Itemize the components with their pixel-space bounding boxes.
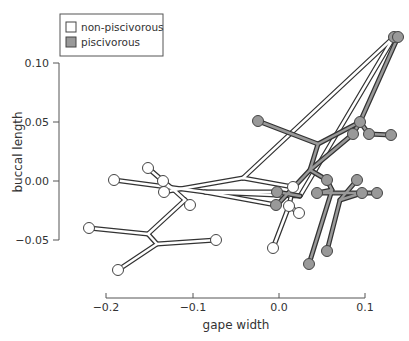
data-point xyxy=(284,201,295,212)
y-axis: 0.10 0.05 0.00 −0.05 buccal length xyxy=(11,57,59,247)
data-point xyxy=(271,200,282,211)
y-tick-label: 0.05 xyxy=(25,116,50,129)
y-axis-label: buccal length xyxy=(11,111,25,192)
y-tick-label: 0.10 xyxy=(25,57,50,70)
data-point xyxy=(294,208,305,219)
data-point xyxy=(143,163,154,174)
x-axis: −0.2 −0.1 0.0 0.1 gape width xyxy=(93,293,374,332)
data-point xyxy=(322,246,333,257)
data-point xyxy=(312,188,323,199)
data-point xyxy=(185,200,196,211)
legend-swatch-gray xyxy=(66,37,76,47)
data-point xyxy=(272,187,283,198)
data-point xyxy=(355,117,366,128)
tree-branches xyxy=(89,37,398,270)
x-tick-label: −0.1 xyxy=(180,301,207,314)
data-point xyxy=(113,265,124,276)
x-tick-label: −0.2 xyxy=(93,301,120,314)
data-point xyxy=(84,223,95,234)
y-tick-label: −0.05 xyxy=(15,234,49,247)
legend-label: non-piscivorous xyxy=(81,21,164,33)
data-point xyxy=(268,243,279,254)
data-point xyxy=(288,182,299,193)
legend-swatch-white xyxy=(66,22,76,32)
data-point xyxy=(357,188,368,199)
data-point xyxy=(364,129,375,140)
phylomorphospace-chart: 0.10 0.05 0.00 −0.05 buccal length −0.2 … xyxy=(0,0,409,341)
data-point xyxy=(348,129,359,140)
data-point xyxy=(158,176,169,187)
data-point xyxy=(211,235,222,246)
data-point xyxy=(253,116,264,127)
data-point xyxy=(109,175,120,186)
legend-entry-non-piscivorous: non-piscivorous xyxy=(66,21,164,33)
plot-svg: 0.10 0.05 0.00 −0.05 buccal length −0.2 … xyxy=(0,0,409,341)
series-non-piscivorous xyxy=(84,163,305,276)
x-tick-label: 0.0 xyxy=(270,301,288,314)
data-point xyxy=(372,188,383,199)
data-point xyxy=(304,259,315,270)
x-tick-label: 0.1 xyxy=(356,301,374,314)
x-axis-label: gape width xyxy=(203,318,270,332)
legend: non-piscivorous piscivorous xyxy=(60,14,164,56)
data-point xyxy=(386,130,397,141)
y-tick-label: 0.00 xyxy=(25,175,50,188)
legend-label: piscivorous xyxy=(81,36,140,48)
data-point xyxy=(352,175,363,186)
data-point xyxy=(393,32,404,43)
data-point xyxy=(159,187,170,198)
data-point xyxy=(322,175,333,186)
